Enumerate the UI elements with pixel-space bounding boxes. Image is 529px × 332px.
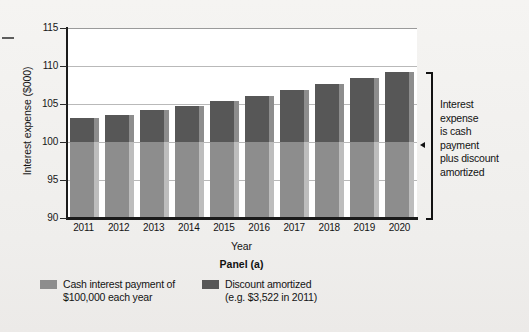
bar-2014 xyxy=(175,106,199,218)
x-tick-label-2020: 2020 xyxy=(381,222,417,233)
y-tick-label-110: 110 xyxy=(12,60,58,71)
bar-2013 xyxy=(140,110,164,218)
bar-segment-discount-2016 xyxy=(245,96,269,142)
bar-shadow-2020 xyxy=(409,142,414,218)
legend-label-discount-amortized-line2: (e.g. $3,522 in 2011) xyxy=(225,291,317,303)
bar-segment-discount-2018 xyxy=(315,84,339,142)
bar-series-layer xyxy=(66,28,417,218)
bar-shadow-top-2011 xyxy=(94,118,99,142)
bar-segment-discount-2017 xyxy=(280,90,304,142)
bar-segment-cash-2012 xyxy=(105,142,129,218)
bracket-spine xyxy=(431,72,433,220)
bracket-arm-bottom xyxy=(426,218,433,220)
bar-segment-discount-2011 xyxy=(70,118,94,142)
bar-segment-discount-2012 xyxy=(105,115,129,142)
y-tick-mark-110 xyxy=(60,66,67,67)
bar-shadow-top-2014 xyxy=(199,106,204,142)
bar-shadow-2018 xyxy=(339,142,344,218)
x-tick-label-2017: 2017 xyxy=(276,222,312,233)
x-tick-label-2015: 2015 xyxy=(206,222,242,233)
annotation-line-2: expense xyxy=(440,112,526,126)
bar-segment-cash-2014 xyxy=(175,142,199,218)
bar-2019 xyxy=(350,78,374,218)
bar-shadow-top-2015 xyxy=(234,101,239,142)
x-tick-label-2016: 2016 xyxy=(241,222,277,233)
bar-segment-cash-2013 xyxy=(140,142,164,218)
bar-shadow-2012 xyxy=(129,142,134,218)
y-tick-mark-95 xyxy=(60,180,67,181)
y-tick-label-100: 100 xyxy=(12,136,58,147)
legend-label-cash-interest: Cash interest payment of $100,000 each y… xyxy=(63,278,175,304)
bar-2015 xyxy=(210,101,234,218)
bar-segment-discount-2013 xyxy=(140,110,164,142)
chart-page: 1151101051009590 Interest expense ($000)… xyxy=(0,0,529,332)
legend-swatch-discount-amortized xyxy=(202,280,219,289)
bar-segment-discount-2019 xyxy=(350,78,374,142)
y-tick-mark-90 xyxy=(60,218,67,219)
legend-label-discount-amortized-line1: Discount amortized xyxy=(225,278,311,290)
bar-shadow-2016 xyxy=(269,142,274,218)
bar-shadow-2017 xyxy=(304,142,309,218)
bar-2011 xyxy=(70,118,94,218)
bar-segment-discount-2015 xyxy=(210,101,234,142)
chart-legend: Cash interest payment of $100,000 each y… xyxy=(40,278,440,312)
bar-segment-discount-2014 xyxy=(175,106,199,142)
x-tick-label-2014: 2014 xyxy=(171,222,207,233)
annotation-line-3: is cash xyxy=(440,125,526,139)
bar-segment-cash-2011 xyxy=(70,142,94,218)
y-tick-label-95: 95 xyxy=(12,174,58,185)
bar-2018 xyxy=(315,84,339,218)
bar-segment-cash-2020 xyxy=(385,142,409,218)
legend-item-cash-interest: Cash interest payment of $100,000 each y… xyxy=(40,278,175,304)
bar-segment-cash-2015 xyxy=(210,142,234,218)
bracket-pointer xyxy=(420,142,425,148)
annotation-line-6: amortized xyxy=(440,166,526,180)
bar-shadow-top-2019 xyxy=(374,78,379,142)
legend-item-discount-amortized: Discount amortized (e.g. $3,522 in 2011) xyxy=(202,278,317,304)
bar-shadow-top-2018 xyxy=(339,84,344,142)
bar-shadow-top-2016 xyxy=(269,96,274,142)
y-tick-mark-105 xyxy=(60,104,67,105)
annotation-line-4: payment xyxy=(440,139,526,153)
annotation-text: Interestexpenseis cashpaymentplus discou… xyxy=(440,98,526,179)
bar-shadow-2014 xyxy=(199,142,204,218)
bar-shadow-top-2013 xyxy=(164,110,169,142)
legend-label-discount-amortized: Discount amortized (e.g. $3,522 in 2011) xyxy=(225,278,317,304)
bracket-arm-top xyxy=(426,72,433,74)
bar-segment-cash-2018 xyxy=(315,142,339,218)
y-axis-title: Interest expense ($000) xyxy=(21,31,33,211)
bar-2017 xyxy=(280,90,304,218)
y-tick-label-115: 115 xyxy=(12,22,58,33)
legend-label-cash-interest-line1: Cash interest payment of xyxy=(63,278,175,290)
bar-shadow-top-2012 xyxy=(129,115,134,142)
x-axis-tick-labels: 2011201220132014201520162017201820192020 xyxy=(66,222,417,238)
x-axis-line xyxy=(66,217,418,220)
bar-shadow-2013 xyxy=(164,142,169,218)
legend-swatch-cash-interest xyxy=(40,280,57,289)
bar-2020 xyxy=(385,72,409,218)
bar-shadow-2019 xyxy=(374,142,379,218)
x-tick-label-2019: 2019 xyxy=(346,222,382,233)
x-tick-label-2011: 2011 xyxy=(66,222,102,233)
bar-2012 xyxy=(105,115,129,218)
annotation-bracket xyxy=(424,72,433,220)
x-tick-label-2012: 2012 xyxy=(101,222,137,233)
bar-segment-cash-2016 xyxy=(245,142,269,218)
y-tick-label-105: 105 xyxy=(12,98,58,109)
bar-shadow-2015 xyxy=(234,142,239,218)
legend-label-cash-interest-line2: $100,000 each year xyxy=(63,291,152,303)
panel-caption: Panel (a) xyxy=(66,258,417,270)
bar-shadow-top-2020 xyxy=(409,72,414,142)
bar-2016 xyxy=(245,96,269,218)
bar-segment-cash-2017 xyxy=(280,142,304,218)
x-axis-title: Year xyxy=(66,240,417,252)
annotation-line-1: Interest xyxy=(440,98,526,112)
y-tick-mark-100 xyxy=(60,142,67,143)
annotation-line-5: plus discount xyxy=(440,152,526,166)
bar-shadow-2011 xyxy=(94,142,99,218)
x-tick-label-2018: 2018 xyxy=(311,222,347,233)
bar-shadow-top-2017 xyxy=(304,90,309,142)
bar-segment-cash-2019 xyxy=(350,142,374,218)
x-tick-label-2013: 2013 xyxy=(136,222,172,233)
y-tick-mark-115 xyxy=(60,28,67,29)
